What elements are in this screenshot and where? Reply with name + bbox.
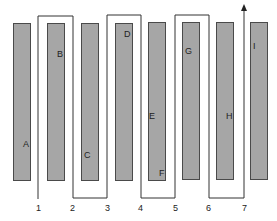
pick-path (0, 0, 277, 221)
item-label: I (253, 42, 256, 51)
item-label: G (185, 47, 192, 56)
item-label: E (149, 112, 155, 121)
item-label: A (23, 140, 29, 149)
aisle-number: 5 (173, 204, 178, 213)
warehouse-pick-path-diagram: ABCDEFGHI 1234567 (0, 0, 277, 221)
item-label: D (124, 30, 131, 39)
item-label: B (57, 50, 63, 59)
item-label: F (159, 169, 165, 178)
aisle-number: 7 (242, 204, 247, 213)
item-label: C (84, 151, 91, 160)
aisle-number: 6 (206, 204, 211, 213)
aisle-number: 2 (70, 204, 75, 213)
aisle-number: 3 (105, 204, 110, 213)
arrow-up-icon (241, 4, 247, 11)
item-label: H (226, 112, 233, 121)
aisle-number: 1 (36, 204, 41, 213)
aisle-number: 4 (138, 204, 143, 213)
serpentine-route-line (38, 9, 244, 199)
